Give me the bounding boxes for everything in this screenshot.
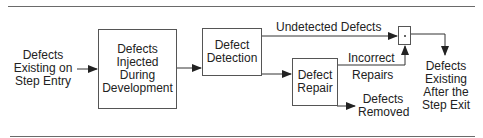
arrow-junction-to-exit (410, 34, 445, 55)
label-repairs: Repairs (352, 69, 393, 82)
label-line: Removed (358, 106, 408, 119)
entry-label: Defects Existing on Step Entry (10, 49, 76, 88)
junction-dot-icon (404, 35, 406, 37)
box-defect-detection: Defect Detection (202, 28, 262, 76)
entry-label-line: Step Entry (10, 75, 76, 88)
box-text-line: Detection (207, 52, 258, 65)
box-defects-injected: Defects Injected During Development (98, 29, 177, 109)
label-incorrect: Incorrect (348, 52, 395, 65)
box-text-line: Repair (297, 82, 332, 95)
box-text-line: Development (102, 82, 173, 95)
exit-label: Defects Existing After the Step Exit (419, 60, 473, 112)
junction-node (398, 26, 411, 45)
exit-label-line: Step Exit (419, 99, 473, 112)
box-defect-repair: Defect Repair (292, 58, 338, 106)
label-defects-removed: Defects Removed (358, 93, 408, 119)
label-undetected-defects: Undetected Defects (276, 21, 381, 34)
